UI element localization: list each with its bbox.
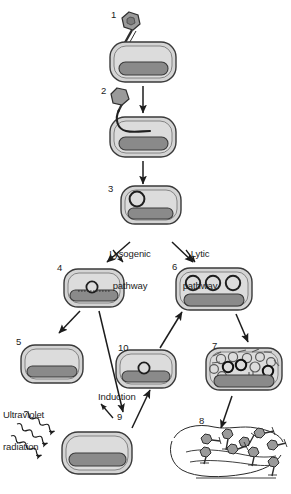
step-number-7: 7 (212, 341, 217, 352)
step-number-5: 5 (16, 337, 21, 348)
step-number-10: 10 (118, 343, 128, 354)
figure-canvas: 1 2 3 4 5 6 7 8 9 10 Lysogenic pathway L… (0, 0, 291, 494)
bacterial-chromosome-3 (128, 208, 173, 219)
caption-lysogenic-pathway: Lysogenic pathway (88, 228, 172, 313)
caption-uv-line2: radiation (3, 442, 79, 453)
caption-lytic-line2: pathway (167, 281, 233, 292)
released-phage-9 (200, 447, 211, 464)
released-phage-1 (201, 434, 221, 444)
leader-induction (101, 404, 113, 418)
arrow-6-to-7 (236, 314, 248, 342)
caption-lysogenic-line1: Lysogenic (88, 249, 172, 260)
step-number-3: 3 (108, 184, 113, 195)
step-1-group (110, 12, 176, 82)
step-7-group (206, 348, 282, 390)
arrow-4-to-5 (59, 311, 80, 333)
released-phage-5 (267, 439, 287, 450)
released-phage-7 (227, 442, 248, 454)
released-phage-8 (268, 457, 279, 476)
step-number-9: 9 (117, 412, 122, 423)
caption-uv-line1: Ultraviolet (3, 410, 79, 421)
bacterial-chromosome-7 (214, 375, 274, 387)
bacterial-chromosome-2 (119, 137, 168, 150)
step-number-1: 1 (111, 10, 116, 21)
step-3-group (121, 186, 181, 224)
step-10-group (116, 350, 176, 388)
step-number-2: 2 (101, 86, 106, 97)
phage-head-core-icon (127, 17, 135, 25)
step-8-group (170, 425, 287, 478)
caption-lysogenic-line2: pathway (88, 281, 172, 292)
arrow-10-to-6 (160, 312, 182, 348)
bacterial-chromosome-1 (119, 62, 168, 75)
arrow-7-to-8 (221, 396, 232, 428)
caption-lytic-pathway: Lytic pathway (167, 228, 233, 313)
lysed-cell-wall-bottom (170, 441, 281, 477)
step-number-4: 4 (57, 263, 62, 274)
phage-head-2-icon (111, 88, 129, 105)
caption-ultraviolet-radiation: Ultraviolet radiation (3, 389, 79, 474)
caption-lytic-line1: Lytic (167, 249, 233, 260)
released-phages (200, 427, 287, 476)
step-number-8: 8 (199, 416, 204, 427)
prophage-loop-10 (138, 362, 149, 373)
bacterial-chromosome-5 (27, 366, 77, 377)
caption-induction: Induction (98, 392, 136, 403)
step-5-group (21, 345, 83, 383)
